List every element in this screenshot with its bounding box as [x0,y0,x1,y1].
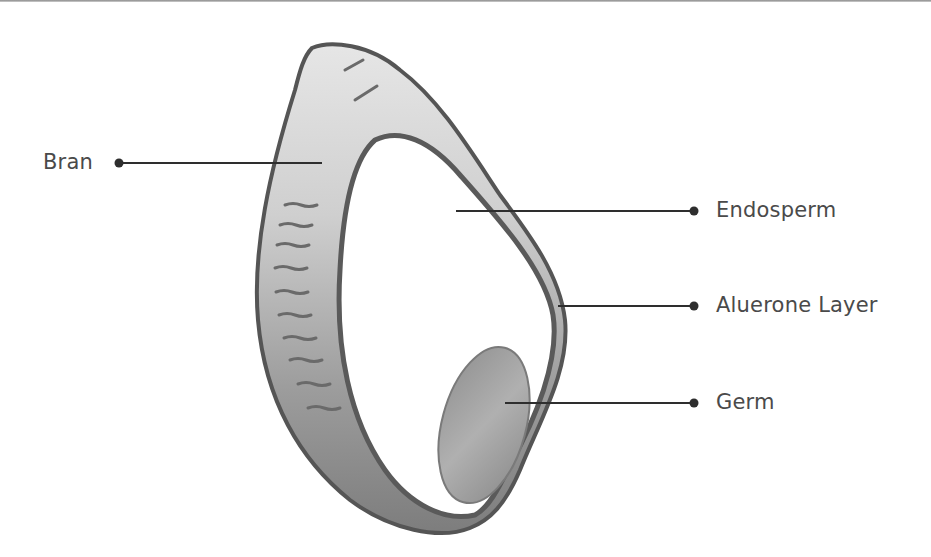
label-aleurone-layer: Aluerone Layer [716,295,878,316]
label-endosperm: Endosperm [716,200,836,221]
wheat-kernel-illustration [0,0,931,557]
bran-shell [257,44,566,533]
label-bran: Bran [43,152,93,173]
label-germ: Germ [716,392,775,413]
